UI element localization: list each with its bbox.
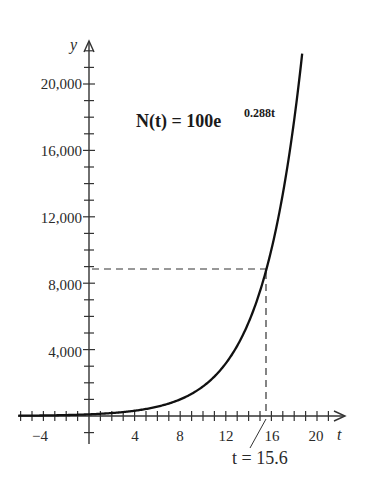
t-tick-label: −4 [32, 428, 48, 444]
y-tick-label: 12,000 [41, 210, 82, 226]
t-annotation: t = 15.6 [232, 448, 288, 468]
y-tick-label: 20,000 [41, 76, 82, 92]
function-exponent: 0.288t [244, 106, 275, 120]
exponential-growth-chart: y t 20,000 16,000 12,000 8,000 4,000 −4 … [0, 0, 371, 485]
y-axis [83, 41, 95, 444]
t-tick-label: 16 [265, 428, 281, 444]
y-axis-label: y [68, 36, 78, 54]
y-tick-label: 4,000 [48, 344, 82, 360]
y-tick-label: 16,000 [41, 143, 82, 159]
t-axis-label: t [337, 426, 342, 443]
function-label: N(t) = 100e [136, 111, 221, 132]
t-tick-label: 20 [309, 428, 324, 444]
t-tick-label: 12 [219, 428, 234, 444]
t-tick-label: 4 [131, 428, 139, 444]
y-tick-label: 8,000 [48, 277, 82, 293]
t-tick-label: 8 [176, 428, 184, 444]
